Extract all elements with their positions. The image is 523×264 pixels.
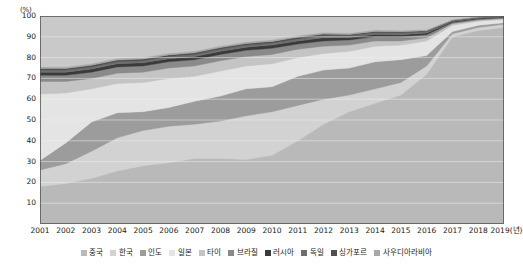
legend-label: 브라질 [237, 249, 258, 257]
legend-label: 중국 [89, 249, 103, 257]
x-tick-label: 2009 [237, 226, 256, 235]
legend-label: 타이 [207, 249, 221, 257]
legend-label: 한국 [119, 249, 133, 257]
x-tick-label: 2013 [340, 226, 359, 235]
plot-area [40, 16, 504, 224]
legend-swatch-icon [81, 250, 87, 256]
x-tick-label: 2018 [469, 226, 488, 235]
y-tick-label: 70 [26, 74, 36, 82]
x-tick-label: 2006 [159, 226, 178, 235]
x-axis-tick-labels: 2001200220032004200520062007200820092010… [40, 226, 504, 240]
legend-item[interactable]: 한국 [110, 249, 133, 257]
legend-item[interactable]: 브라질 [228, 249, 258, 257]
legend-swatch-icon [374, 250, 380, 256]
legend-item[interactable]: 일본 [169, 249, 192, 257]
x-tick-label: 2019(년) [491, 226, 523, 235]
x-tick-label: 2004 [108, 226, 127, 235]
y-tick-label: 40 [26, 137, 36, 145]
x-tick-label: 2012 [314, 226, 333, 235]
x-tick-label: 2017 [443, 226, 462, 235]
y-tick-label: 30 [26, 158, 36, 166]
legend-swatch-icon [228, 250, 234, 256]
legend-swatch-icon [199, 250, 205, 256]
legend-label: 인도 [148, 249, 162, 257]
y-axis-tick-labels: 100908070605040302010 [0, 16, 36, 224]
x-tick-label: 2008 [211, 226, 230, 235]
legend-label: 독일 [310, 249, 324, 257]
x-tick-label: 2014 [366, 226, 385, 235]
y-tick-label: 60 [26, 95, 36, 103]
legend-label: 싱가포르 [339, 249, 367, 257]
x-tick-label: 2003 [82, 226, 101, 235]
x-tick-label: 2007 [185, 226, 204, 235]
y-tick-label: 90 [26, 33, 36, 41]
x-tick-label: 2016 [417, 226, 436, 235]
legend-swatch-icon [331, 250, 337, 256]
legend-item[interactable]: 인도 [140, 249, 163, 257]
legend-swatch-icon [110, 250, 116, 256]
legend-swatch-icon [140, 250, 146, 256]
legend-label: 일본 [178, 249, 192, 257]
y-tick-label: 50 [26, 116, 36, 124]
chart-legend: 중국한국인도일본타이브라질러시아독일싱가포르사우디아라비아 [0, 246, 512, 260]
legend-swatch-icon [301, 250, 307, 256]
y-tick-label: 10 [26, 199, 36, 207]
y-tick-label: 20 [26, 178, 36, 186]
legend-item[interactable]: 중국 [81, 249, 104, 257]
x-tick-label: 2001 [30, 226, 49, 235]
x-tick-label: 2015 [391, 226, 410, 235]
x-tick-label: 2002 [56, 226, 75, 235]
legend-item[interactable]: 타이 [199, 249, 222, 257]
x-tick-label: 2011 [288, 226, 307, 235]
legend-item[interactable]: 러시아 [265, 249, 295, 257]
y-tick-label: 100 [22, 12, 36, 20]
plot-svg [40, 16, 504, 224]
legend-swatch-icon [169, 250, 175, 256]
legend-swatch-icon [265, 250, 271, 256]
legend-item[interactable]: 싱가포르 [331, 249, 368, 257]
y-tick-label: 80 [26, 54, 36, 62]
x-tick-label: 2005 [134, 226, 153, 235]
x-tick-label: 2010 [262, 226, 281, 235]
legend-item[interactable]: 사우디아라비아 [374, 249, 432, 257]
legend-item[interactable]: 독일 [301, 249, 324, 257]
legend-label: 러시아 [273, 249, 294, 257]
legend-label: 사우디아라비아 [383, 249, 432, 257]
